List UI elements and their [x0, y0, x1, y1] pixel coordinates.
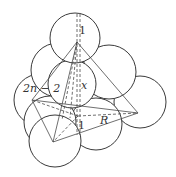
sphere-pyramid-diagram: 1 2n − 2 x 1 R: [0, 0, 176, 177]
sphere-top: [50, 13, 100, 63]
label-edge: 2n − 2: [22, 82, 60, 95]
label-base-radius: 1: [78, 119, 85, 132]
label-height: x: [81, 79, 88, 92]
label-top-radius: 1: [79, 24, 86, 37]
label-circumradius: R: [99, 114, 108, 127]
